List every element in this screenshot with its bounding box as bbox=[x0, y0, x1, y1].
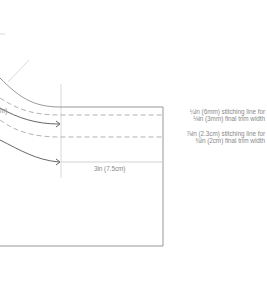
annotation-seven-eighths-inch: ⅞in (2.3cm) stitching line for ¾in (2cm)… bbox=[165, 130, 265, 145]
stitching-line-quarter-inch bbox=[0, 98, 163, 115]
annotation-quarter-inch-line2: ⅛in (3mm) final trim width bbox=[165, 115, 265, 122]
annotation-seven-eighths-line1: ⅞in (2.3cm) stitching line for bbox=[165, 130, 265, 137]
arrow-curve-lower bbox=[0, 140, 59, 162]
arrow-curve-upper bbox=[0, 108, 59, 124]
diagonal-guide-line bbox=[8, 60, 29, 82]
dimension-label: 3in (7.5cm) bbox=[94, 165, 125, 172]
annotation-quarter-inch: ¼in (6mm) stitching line for ⅛in (3mm) f… bbox=[165, 108, 265, 123]
stitching-line-seven-eighths-inch bbox=[0, 120, 163, 137]
annotation-quarter-inch-line1: ¼in (6mm) stitching line for bbox=[165, 108, 265, 115]
partial-left-label: m) bbox=[0, 107, 7, 114]
annotation-seven-eighths-line2: ¾in (2cm) final trim width bbox=[165, 137, 265, 144]
